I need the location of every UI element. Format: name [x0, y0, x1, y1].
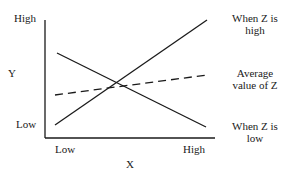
legend-z-high-line2: high	[226, 24, 284, 36]
legend-z-high-line1: When Z is	[226, 12, 284, 24]
x-tick-high: High	[183, 143, 205, 155]
x-tick-low: Low	[55, 143, 75, 155]
line-z-high	[55, 20, 207, 125]
y-axis-label: Y	[8, 67, 16, 79]
legend-z-low-line1: When Z is	[226, 120, 284, 132]
line-z-low	[57, 53, 206, 127]
legend-z-average: Average value of Z	[226, 67, 284, 91]
legend-z-low-line2: low	[226, 132, 284, 144]
legend-z-average-line1: Average	[226, 67, 284, 79]
x-axis-label: X	[126, 158, 134, 170]
legend-z-low: When Z is low	[226, 120, 284, 144]
y-tick-high: High	[14, 12, 36, 24]
legend-z-high: When Z is high	[226, 12, 284, 36]
legend-z-average-line2: value of Z	[226, 79, 284, 91]
line-z-average	[55, 75, 207, 95]
y-tick-low: Low	[16, 118, 36, 130]
